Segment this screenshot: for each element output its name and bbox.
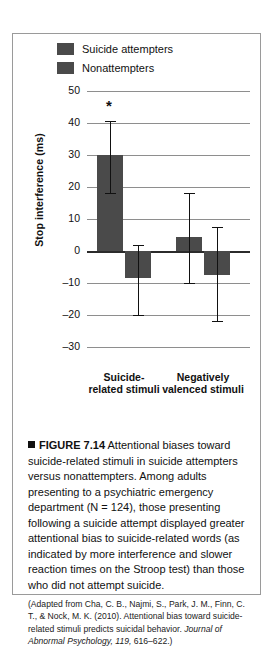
error-bar-cap [133, 245, 144, 246]
caption-body: Attentional biases toward suicide-relate… [28, 439, 244, 591]
y-tick-label: 10 [46, 212, 80, 224]
error-bar-cap [133, 315, 144, 316]
error-bar-cap [184, 283, 195, 284]
y-tick-label: 20 [46, 180, 80, 192]
y-tick-label: 30 [46, 148, 80, 160]
y-tick-label: –10 [46, 276, 80, 288]
error-bar-cap [184, 193, 195, 194]
y-tick-label: 40 [46, 116, 80, 128]
gridline [87, 123, 250, 124]
y-tick-label: 50 [46, 84, 80, 96]
source-pages: 616–622.) [131, 636, 172, 646]
figure-number: FIGURE 7.14 [39, 439, 105, 451]
y-tick-label: 0 [46, 244, 80, 256]
x-category-label: Negativelyvalenced stimuli [153, 371, 253, 395]
caption-text: FIGURE 7.14 Attentional biases toward su… [28, 438, 246, 593]
gridline [87, 315, 250, 316]
gridline [87, 283, 250, 284]
error-bar-cap [212, 227, 223, 228]
figure-caption: FIGURE 7.14 Attentional biases toward su… [28, 438, 246, 648]
error-bar-cap [212, 321, 223, 322]
gridline [87, 91, 250, 92]
error-bar-line [217, 227, 218, 321]
y-tick-label: –20 [46, 308, 80, 320]
error-bar-line [189, 193, 190, 283]
error-bar-cap [105, 193, 116, 194]
caption-source: (Adapted from Cha, C. B., Najmi, S., Par… [28, 598, 246, 648]
y-axis-title: Stop interference (ms) [33, 115, 45, 265]
significance-star: * [106, 101, 112, 111]
error-bar-line [138, 245, 139, 315]
black-square-icon [28, 441, 35, 448]
error-bar-line [110, 121, 111, 193]
y-tick-label: –30 [46, 340, 80, 352]
gridline [87, 347, 250, 348]
figure-container: Suicide attempters Nonattempters Stop in… [12, 33, 261, 595]
error-bar-cap [105, 121, 116, 122]
bar-chart: Stop interference (ms) 50403020100–10–20… [13, 34, 262, 384]
